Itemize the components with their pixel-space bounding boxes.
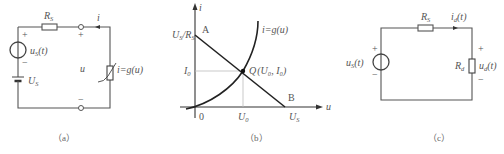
voltage-label: u — [80, 63, 85, 74]
source-plus: + — [22, 29, 28, 40]
terminal-bottom — [79, 106, 84, 111]
q-label: Q(U₀, I₀) — [249, 65, 287, 77]
vd-label: ud(t) — [479, 60, 497, 72]
rs-c-label: RS — [420, 11, 431, 23]
point-a-label: A — [202, 24, 210, 35]
panel-c: + − uS(t) RS id(t) Rd + − ud(t) （c） — [346, 11, 497, 143]
point-b-label: B — [288, 92, 295, 103]
source-c-plus: + — [372, 43, 378, 54]
caption-c: （c） — [428, 133, 450, 143]
rs-resistor — [42, 24, 57, 30]
vd-plus: + — [478, 43, 484, 54]
dc-source-label: US — [28, 75, 39, 87]
current-c-label: id(t) — [451, 11, 467, 23]
caption-b: （b） — [245, 133, 268, 143]
x-axis-arrow-icon — [316, 105, 323, 110]
caption-a: （a） — [53, 133, 75, 143]
terminal-minus-label: − — [78, 94, 84, 105]
x-axis-label: u — [326, 101, 331, 112]
rs-c-resistor — [418, 25, 433, 31]
current-label: i — [97, 12, 100, 23]
rd-label: Rd — [454, 60, 465, 72]
us-label: US — [289, 111, 300, 123]
origin-label: 0 — [199, 111, 204, 122]
source-c-label: uS(t) — [346, 57, 364, 69]
y-axis-label: i — [199, 2, 202, 13]
y-axis-arrow-icon — [193, 3, 198, 10]
circuit-figure: RS + − i + − uS(t) US u i=g(u) （a） i — [0, 0, 504, 154]
us-t-label: uS(t) — [30, 45, 48, 57]
panel-a: RS + − i + − uS(t) US u i=g(u) （a） — [10, 10, 144, 143]
vd-minus: − — [478, 74, 484, 85]
u0-label: U0 — [238, 111, 249, 123]
curve-label: i=g(u) — [262, 24, 289, 36]
i0-label: I0 — [183, 65, 191, 77]
current-arrow-icon — [95, 25, 100, 29]
nonlinear-curve — [186, 21, 258, 109]
rd-resistor — [469, 59, 475, 73]
source-c-minus: − — [372, 69, 378, 80]
rs-label: RS — [43, 10, 54, 22]
panel-b: i u US/RS A B i=g(u) I0 U0 US 0 Q(U₀, I₀… — [172, 2, 331, 143]
current-c-arrow-icon — [453, 26, 458, 30]
nonlinear-label: i=g(u) — [117, 64, 144, 76]
terminal-plus-label: + — [78, 29, 84, 40]
source-minus: − — [22, 57, 28, 68]
y-intercept-label: US/RS — [172, 29, 195, 41]
q-point — [241, 69, 245, 73]
